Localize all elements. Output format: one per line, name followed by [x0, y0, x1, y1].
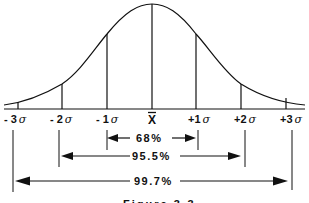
range-68-label: 68%: [136, 132, 163, 144]
figure-caption: Figure 3-3: [123, 198, 196, 203]
range-955-label: 95.5%: [132, 150, 171, 162]
bell-curve: [4, 4, 305, 105]
range-955-arrow: 95.5%: [61, 150, 241, 162]
range-68-arrow: 68%: [107, 132, 196, 144]
range-997-arrow: 99.7%: [15, 175, 288, 187]
label-minus-3-sigma: - 3σ: [4, 113, 27, 126]
label-minus-1-sigma: - 1σ: [96, 113, 119, 126]
label-minus-2-sigma: - 2σ: [50, 113, 73, 126]
range-997-label: 99.7%: [134, 175, 173, 187]
label-plus-1-sigma: +1σ: [188, 113, 211, 126]
normal-distribution-diagram: - 3σ - 2σ - 1σ X +1σ +2σ +3σ 68% 95.5% 9…: [0, 0, 309, 203]
label-mean: X: [148, 113, 156, 127]
label-plus-2-sigma: +2σ: [234, 113, 257, 126]
label-plus-3-sigma: +3σ: [280, 113, 303, 126]
